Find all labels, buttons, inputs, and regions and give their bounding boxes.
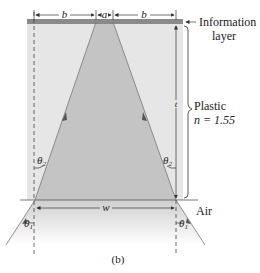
label-layer: layer: [212, 29, 236, 43]
label-b-left: b: [62, 8, 68, 20]
label-plastic: Plastic: [194, 99, 226, 113]
label-b-right: b: [141, 8, 147, 20]
figure-caption: (b): [112, 253, 125, 266]
plastic-brace: [184, 26, 192, 198]
optical-disc-diagram: b a b Information layer t Plastic n = 1.…: [0, 0, 260, 273]
label-information: Information: [199, 15, 256, 29]
label-a: a: [102, 8, 108, 20]
label-n-value: n = 1.55: [194, 113, 235, 127]
label-w: w: [102, 201, 110, 213]
label-air: Air: [196, 204, 212, 218]
